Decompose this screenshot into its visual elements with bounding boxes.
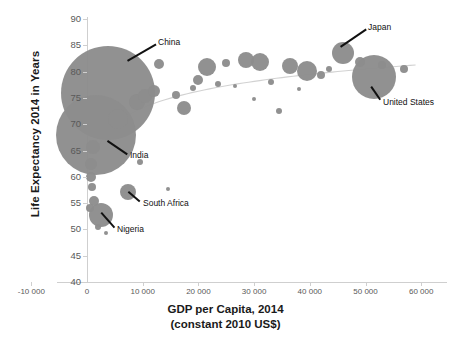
- plot-area: 4045505560657075808590-10 000010 00020 0…: [0, 0, 451, 351]
- y-tick-mark: [83, 256, 87, 257]
- bubble-point: [297, 87, 301, 91]
- x-tick-label: 20 000: [168, 287, 228, 296]
- y-tick-mark: [83, 72, 87, 73]
- y-tick-mark: [83, 45, 87, 46]
- x-tick-label: 10 000: [113, 287, 173, 296]
- y-tick-mark: [83, 229, 87, 230]
- x-tick-mark: [421, 282, 422, 286]
- bubble-point: [276, 108, 282, 114]
- bubble-point: [355, 57, 365, 67]
- x-axis-title-line1: GDP per Capita, 2014: [0, 302, 451, 317]
- x-tick-mark: [366, 282, 367, 286]
- bubble-point: [317, 71, 325, 79]
- y-tick-mark: [83, 98, 87, 99]
- bubble-point: [172, 91, 180, 99]
- x-tick-mark: [31, 282, 32, 286]
- x-tick-label: 50 000: [336, 287, 396, 296]
- bubble-point: [108, 109, 128, 129]
- y-tick-label: 85: [55, 39, 81, 50]
- x-tick-label: 0: [57, 287, 117, 296]
- x-tick-mark: [198, 282, 199, 286]
- y-tick-label: 45: [55, 250, 81, 261]
- y-tick-label: 40: [55, 276, 81, 287]
- x-axis-title: GDP per Capita, 2014 (constant 2010 US$): [0, 302, 451, 332]
- bubble-chart: Life Expectancy 2014 in Years 4045505560…: [0, 0, 451, 351]
- annotation-label-japan: Japan: [368, 22, 391, 32]
- y-tick-label: 90: [55, 13, 81, 24]
- y-tick-label: 60: [55, 171, 81, 182]
- bubble-point: [86, 172, 96, 182]
- y-tick-mark: [83, 151, 87, 152]
- bubble-point: [326, 66, 332, 72]
- bubble-point: [177, 101, 191, 115]
- annotation-label-south-africa: South Africa: [143, 198, 189, 208]
- y-tick-label: 80: [55, 66, 81, 77]
- x-tick-mark: [254, 282, 255, 286]
- annotation-label-united-states: United States: [383, 97, 434, 107]
- annotation-label-nigeria: Nigeria: [117, 224, 144, 234]
- x-axis-title-line2: (constant 2010 US$): [0, 317, 451, 332]
- bubble-point: [193, 75, 203, 85]
- bubble-point: [282, 58, 298, 74]
- y-tick-label: 55: [55, 197, 81, 208]
- bubble-point: [148, 85, 160, 97]
- bubble-point: [88, 183, 96, 191]
- bubble-point: [252, 97, 256, 101]
- bubble-point: [166, 187, 170, 191]
- y-tick-mark: [83, 203, 87, 204]
- bubble-point: [400, 65, 408, 73]
- bubble-point: [104, 231, 108, 235]
- annotation-label-india: India: [130, 150, 148, 160]
- bubble-point: [268, 79, 274, 85]
- bubble-point: [198, 58, 216, 76]
- y-tick-mark: [83, 19, 87, 20]
- annotation-label-china: China: [158, 37, 180, 47]
- annotation-leader-japan: [340, 29, 367, 48]
- y-tick-label: 50: [55, 223, 81, 234]
- bubble-point: [233, 84, 237, 88]
- x-tick-label: -10 000: [1, 287, 61, 296]
- bubble-point: [238, 52, 254, 68]
- bubble-point: [297, 61, 317, 81]
- x-tick-label: 40 000: [280, 287, 340, 296]
- y-tick-label: 75: [55, 92, 81, 103]
- x-tick-mark: [310, 282, 311, 286]
- y-tick-mark: [83, 177, 87, 178]
- bubble-point: [154, 59, 164, 69]
- y-tick-mark: [83, 124, 87, 125]
- y-tick-label: 65: [55, 145, 81, 156]
- x-tick-label: 30 000: [224, 287, 284, 296]
- bubble-point: [222, 59, 230, 67]
- bubble-point: [95, 224, 101, 230]
- x-tick-label: 60 000: [391, 287, 451, 296]
- x-axis-line: [57, 282, 447, 283]
- x-tick-mark: [143, 282, 144, 286]
- y-tick-label: 70: [55, 118, 81, 129]
- y-tick-mark: [83, 282, 87, 283]
- bubble-point: [190, 85, 196, 91]
- bubble-point: [215, 81, 221, 87]
